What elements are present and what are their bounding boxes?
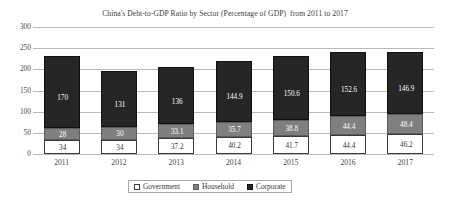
bar-segment-government-2015[interactable]: 41.7 bbox=[273, 136, 309, 154]
bar-segment-government-2011[interactable]: 34 bbox=[44, 140, 80, 154]
bar-value-label: 146.9 bbox=[388, 85, 423, 93]
bar-value-label: 44.4 bbox=[331, 123, 366, 131]
bar-group-2014[interactable]: 144.935.740.2 bbox=[216, 61, 252, 154]
bar-value-label: 40.2 bbox=[217, 142, 252, 150]
bar-value-label: 38.8 bbox=[274, 125, 309, 133]
legend-item-corporate[interactable]: Corporate bbox=[247, 182, 286, 191]
stacked-bar-chart: China's Debt-to-GDP Ratio by Sector (Per… bbox=[0, 0, 450, 205]
bar-value-label: 34 bbox=[45, 144, 80, 152]
bar-value-label: 35.7 bbox=[217, 126, 252, 134]
bars-layer: 1702834131303413633.137.2144.935.740.215… bbox=[33, 27, 434, 154]
bar-segment-government-2017[interactable]: 46.2 bbox=[387, 134, 423, 154]
bar-segment-government-2014[interactable]: 40.2 bbox=[216, 137, 252, 154]
x-tick-label-2015: 2015 bbox=[262, 158, 319, 167]
x-tick-label-2016: 2016 bbox=[319, 158, 376, 167]
y-tick-label: 200 bbox=[3, 65, 31, 73]
bar-segment-corporate-2012[interactable]: 131 bbox=[101, 71, 137, 126]
y-tick-label: 0 bbox=[3, 150, 31, 158]
x-axis-labels: 2011201220132014201520162017 bbox=[33, 158, 434, 170]
bar-segment-corporate-2011[interactable]: 170 bbox=[44, 56, 80, 128]
bar-value-label: 37.2 bbox=[159, 143, 194, 151]
bar-value-label: 150.6 bbox=[274, 90, 309, 98]
y-tick-label: 300 bbox=[3, 23, 31, 31]
y-tick-label: 50 bbox=[3, 129, 31, 137]
y-tick-label: 150 bbox=[3, 87, 31, 95]
bar-group-2013[interactable]: 13633.137.2 bbox=[158, 67, 194, 154]
bar-group-2017[interactable]: 146.948.446.2 bbox=[387, 52, 423, 154]
x-tick-label-2014: 2014 bbox=[205, 158, 262, 167]
household-swatch bbox=[193, 184, 199, 190]
bar-value-label: 28 bbox=[45, 131, 80, 139]
bar-segment-government-2013[interactable]: 37.2 bbox=[158, 138, 194, 154]
bar-segment-corporate-2013[interactable]: 136 bbox=[158, 67, 194, 125]
legend-label: Household bbox=[202, 182, 234, 191]
bar-group-2012[interactable]: 1313034 bbox=[101, 71, 137, 154]
legend-item-household[interactable]: Household bbox=[193, 182, 234, 191]
legend-label: Government bbox=[143, 182, 180, 191]
x-tick-label-2017: 2017 bbox=[377, 158, 434, 167]
bar-segment-household-2016[interactable]: 44.4 bbox=[330, 116, 366, 135]
bar-segment-corporate-2017[interactable]: 146.9 bbox=[387, 52, 423, 114]
legend-label: Corporate bbox=[256, 182, 286, 191]
legend-item-government[interactable]: Government bbox=[134, 182, 180, 191]
bar-segment-corporate-2014[interactable]: 144.9 bbox=[216, 61, 252, 122]
bar-value-label: 41.7 bbox=[274, 142, 309, 150]
government-swatch bbox=[134, 184, 140, 190]
bar-value-label: 46.2 bbox=[388, 141, 423, 149]
bar-segment-household-2011[interactable]: 28 bbox=[44, 128, 80, 140]
x-tick-label-2012: 2012 bbox=[90, 158, 147, 167]
bar-segment-corporate-2015[interactable]: 150.6 bbox=[273, 56, 309, 120]
bar-value-label: 144.9 bbox=[217, 93, 252, 101]
bar-group-2016[interactable]: 152.644.444.4 bbox=[330, 52, 366, 154]
chart-title: China's Debt-to-GDP Ratio by Sector (Per… bbox=[0, 9, 450, 18]
bar-segment-household-2014[interactable]: 35.7 bbox=[216, 122, 252, 137]
bar-segment-household-2012[interactable]: 30 bbox=[101, 127, 137, 140]
bar-value-label: 152.6 bbox=[331, 86, 366, 94]
bar-value-label: 131 bbox=[102, 101, 137, 109]
bar-segment-corporate-2016[interactable]: 152.6 bbox=[330, 52, 366, 117]
bar-segment-household-2013[interactable]: 33.1 bbox=[158, 124, 194, 138]
y-tick-label: 250 bbox=[3, 44, 31, 52]
bar-value-label: 34 bbox=[102, 144, 137, 152]
bar-value-label: 48.4 bbox=[388, 121, 423, 129]
x-tick-label-2011: 2011 bbox=[33, 158, 90, 167]
bar-value-label: 44.4 bbox=[331, 142, 366, 150]
bar-value-label: 30 bbox=[102, 130, 137, 138]
bar-segment-government-2012[interactable]: 34 bbox=[101, 140, 137, 154]
bar-segment-household-2015[interactable]: 38.8 bbox=[273, 120, 309, 136]
bar-segment-government-2016[interactable]: 44.4 bbox=[330, 135, 366, 154]
y-tick-label: 100 bbox=[3, 108, 31, 116]
corporate-swatch bbox=[247, 184, 253, 190]
bar-segment-household-2017[interactable]: 48.4 bbox=[387, 114, 423, 134]
y-axis: 050100150200250300 bbox=[0, 27, 31, 154]
bar-value-label: 33.1 bbox=[159, 128, 194, 136]
chart-legend: GovernmentHouseholdCorporate bbox=[128, 180, 292, 193]
bar-group-2011[interactable]: 1702834 bbox=[44, 56, 80, 154]
gridline-0 bbox=[33, 154, 434, 155]
x-tick-label-2013: 2013 bbox=[148, 158, 205, 167]
bar-value-label: 170 bbox=[45, 94, 80, 102]
bar-value-label: 136 bbox=[159, 98, 194, 106]
bar-group-2015[interactable]: 150.638.841.7 bbox=[273, 56, 309, 154]
